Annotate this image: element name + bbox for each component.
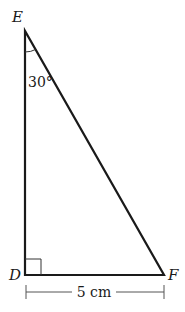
- right-angle-marker: [25, 259, 41, 275]
- angle-label-e: 30°: [28, 74, 53, 90]
- vertex-label-f: F: [167, 266, 179, 284]
- vertex-label-e: E: [11, 8, 23, 26]
- triangle-diagram: E D F 30° 5 cm: [0, 0, 185, 312]
- triangle-def: [25, 31, 164, 275]
- dimension-label: 5 cm: [77, 284, 111, 300]
- vertex-label-d: D: [8, 266, 21, 284]
- angle-arc-e: [25, 50, 36, 53]
